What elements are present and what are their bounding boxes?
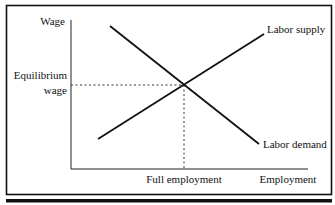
labor-supply-line [98,34,264,139]
equilibrium-wage-label-line2: wage [44,84,67,96]
y-axis-label: Wage [40,15,65,27]
labor-market-diagram: Wage Equilibrium wage Labor supply Labor… [0,0,335,205]
full-employment-label: Full employment [146,173,221,185]
equilibrium-wage-label-line1: Equilibrium [14,69,68,81]
labor-supply-label: Labor supply [267,23,326,35]
labor-demand-label: Labor demand [263,138,327,150]
bottom-rule [6,199,332,203]
x-axis-label: Employment [260,173,317,185]
